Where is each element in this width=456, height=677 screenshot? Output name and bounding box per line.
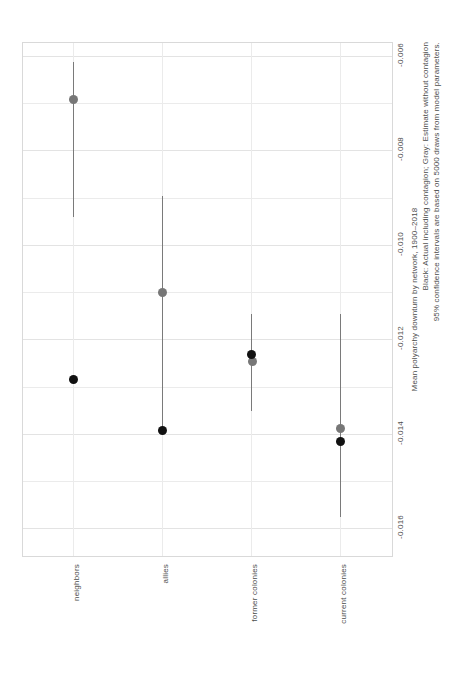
- gridline-major-0.016: [23, 528, 392, 529]
- gridline-category-former-colonies: [251, 43, 252, 556]
- caption-line-confidence-note: 95% confidence intervals are based on 50…: [431, 42, 442, 321]
- caption-block: Mean polyarchy downturn by network, 1900…: [409, 42, 453, 557]
- gridline-minor-0.015: [23, 481, 392, 482]
- point-allies-estimate: [158, 288, 167, 297]
- point-neighbors-estimate: [69, 95, 78, 104]
- point-neighbors-actual: [69, 375, 78, 384]
- category-label-former-colonies: former colonies: [250, 564, 259, 674]
- error-bar-allies-estimate: [162, 196, 163, 431]
- gridline-major-0.014: [23, 434, 392, 435]
- category-label-neighbors: neighbors: [72, 564, 81, 674]
- gridline-minor-0.007: [23, 103, 392, 104]
- category-label-allies: allies: [161, 564, 170, 674]
- gridline-major-0.010: [23, 245, 392, 246]
- point-former-colonies-actual: [247, 350, 256, 359]
- axis-tick-label-2: -0.010: [396, 209, 405, 279]
- axis-tick-label-0: -0.006: [396, 20, 405, 90]
- caption-line-series-legend: Black: Actual including contagion; Gray:…: [420, 42, 431, 290]
- axis-tick-label-3: -0.012: [396, 303, 405, 373]
- axis-tick-label-1: -0.008: [396, 114, 405, 184]
- point-allies-actual: [158, 426, 167, 435]
- plot-panel: [22, 42, 393, 557]
- gridline-major-0.012: [23, 339, 392, 340]
- category-label-current-colonies: current colonies: [339, 564, 348, 674]
- gridline-major-0.006: [23, 56, 392, 57]
- axis-tick-label-5: -0.016: [396, 492, 405, 562]
- point-current-colonies-actual: [336, 437, 345, 446]
- gridline-minor-0.013: [23, 387, 392, 388]
- gridline-major-0.008: [23, 150, 392, 151]
- error-bar-neighbors-estimate: [73, 62, 74, 217]
- axis-tick-label-4: -0.014: [396, 398, 405, 468]
- chart-figure: -0.006 -0.008 -0.010 -0.012 -0.014 -0.01…: [0, 0, 456, 677]
- point-current-colonies-estimate: [336, 424, 345, 433]
- gridline-minor-0.011: [23, 292, 392, 293]
- gridline-minor-0.009: [23, 198, 392, 199]
- axis-title: Mean polyarchy downturn by network, 1900…: [409, 208, 420, 392]
- error-bar-current-colonies-estimate: [340, 314, 341, 517]
